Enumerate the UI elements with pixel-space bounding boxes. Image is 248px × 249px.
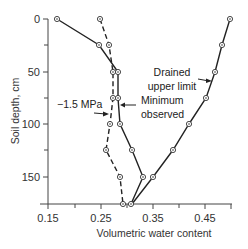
svg-text:−1.5 MPa: −1.5 MPa (57, 98, 102, 110)
annotation-drained-upper-limit: Drained upper limit (148, 66, 212, 92)
svg-text:observed: observed (141, 108, 184, 120)
y-tick-label: 150 (22, 171, 40, 183)
y-tick-label: 100 (22, 118, 40, 130)
annotation-1p5mpa: −1.5 MPa (57, 98, 109, 117)
x-tick-label: 0.15 (37, 212, 58, 224)
svg-text:Minimum: Minimum (141, 94, 184, 106)
svg-text:upper limit: upper limit (148, 80, 197, 92)
x-axis-title: Volumetric water content (97, 227, 212, 239)
x-tick-label: 0.45 (194, 212, 215, 224)
chart: 0 50 100 150 0.15 0.25 0.35 0.45 Volumet… (0, 0, 248, 249)
y-tick-label: 50 (28, 66, 40, 78)
x-tick-label: 0.35 (142, 212, 163, 224)
y-axis (43, 19, 48, 204)
annotation-minimum-observed: Minimum observed (120, 94, 184, 120)
svg-text:Drained: Drained (154, 66, 191, 78)
y-axis-title: Soil depth, cm (9, 77, 21, 144)
x-axis (40, 204, 232, 209)
x-tick-label: 0.25 (90, 212, 111, 224)
y-tick-label: 0 (34, 13, 40, 25)
